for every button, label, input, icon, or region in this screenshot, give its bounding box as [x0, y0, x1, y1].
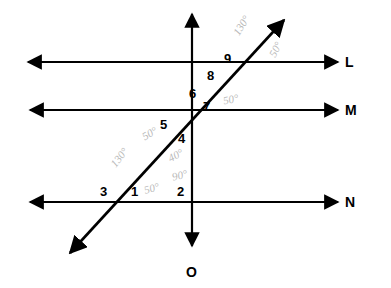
geometry-figure: 1 2 3 4 5 6 7 8 9 L M N O 130° 50° 50° 5… [0, 0, 391, 288]
angle-number-3: 3 [100, 185, 107, 198]
angle-number-8: 8 [207, 69, 214, 82]
figure-canvas [0, 0, 391, 288]
angle-number-1: 1 [131, 185, 138, 198]
angle-number-6: 6 [189, 87, 196, 100]
angle-number-2: 2 [177, 185, 184, 198]
line-label-N: N [345, 195, 355, 209]
line-label-L: L [345, 55, 354, 69]
angle-number-4: 4 [178, 132, 185, 145]
angle-number-9: 9 [224, 52, 231, 65]
transversal-line [70, 20, 284, 253]
angle-number-5: 5 [160, 118, 167, 131]
line-label-M: M [345, 103, 357, 117]
angle-number-7: 7 [203, 100, 210, 113]
line-label-O: O [186, 265, 197, 279]
